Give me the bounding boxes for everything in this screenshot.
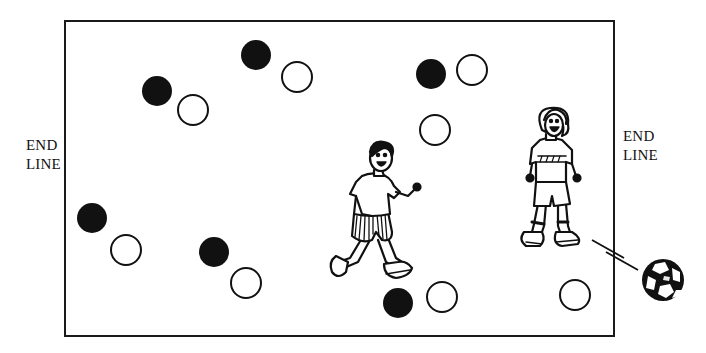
boy-player-icon bbox=[331, 142, 421, 278]
hollow-marker-icon bbox=[111, 235, 141, 265]
filled-marker-icon bbox=[416, 59, 446, 89]
hollow-marker-icon bbox=[231, 268, 261, 298]
filled-marker-icon bbox=[241, 40, 271, 70]
filled-marker-icon bbox=[77, 203, 107, 233]
hollow-marker-icon bbox=[560, 280, 590, 310]
filled-marker-icon bbox=[142, 76, 172, 106]
hollow-marker-icon bbox=[178, 95, 208, 125]
game-art bbox=[0, 0, 706, 353]
hollow-marker-icon bbox=[420, 115, 450, 145]
filled-marker-icon bbox=[199, 237, 229, 267]
markers-layer bbox=[77, 40, 590, 318]
girl-player-icon bbox=[521, 108, 580, 246]
hollow-marker-icon bbox=[282, 62, 312, 92]
hollow-marker-icon bbox=[457, 55, 487, 85]
hollow-marker-icon bbox=[427, 282, 457, 312]
kick-direction-lines bbox=[592, 240, 638, 270]
soccer-ball-icon bbox=[642, 259, 684, 301]
filled-marker-icon bbox=[383, 288, 413, 318]
